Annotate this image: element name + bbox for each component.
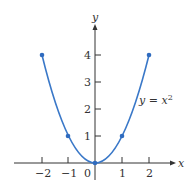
y-tick-label: 3	[84, 76, 91, 89]
x-tick-label: 0	[84, 167, 91, 180]
y-tick-label: 2	[84, 103, 91, 116]
y-ticks	[95, 55, 101, 136]
plot-area: x y −2 −1 0 1 2 1 2 3 4	[0, 0, 193, 189]
x-axis-label: x	[178, 157, 185, 170]
x-tick-label: 2	[146, 167, 153, 180]
data-point	[40, 53, 45, 58]
x-tick-label: −2	[35, 167, 51, 180]
data-point	[147, 53, 152, 58]
y-tick-label: 4	[84, 49, 91, 62]
curve-label: y = x2	[138, 93, 173, 107]
chart: x y −2 −1 0 1 2 1 2 3 4	[0, 0, 193, 189]
y-tick-label: 1	[84, 130, 91, 143]
y-axis-arrow-icon	[93, 24, 98, 30]
data-point	[66, 134, 71, 139]
x-axis-arrow-icon	[170, 161, 176, 166]
x-tick-label: −1	[61, 167, 77, 180]
x-tick-label: 1	[119, 167, 126, 180]
y-axis-label: y	[91, 11, 99, 24]
data-point	[93, 161, 98, 166]
data-point	[120, 134, 125, 139]
